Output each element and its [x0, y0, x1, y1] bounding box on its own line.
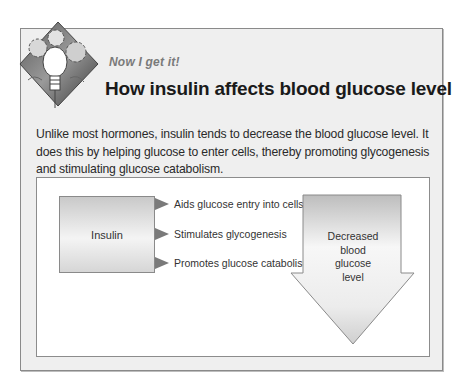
- page-title: How insulin affects blood glucose level: [105, 78, 452, 100]
- result-line: glucose: [318, 257, 388, 271]
- result-line: level: [318, 271, 388, 285]
- section-kicker: Now I get it!: [109, 55, 180, 69]
- effect-label: Stimulates glycogenesis: [174, 228, 287, 240]
- insulin-label: Insulin: [91, 229, 123, 241]
- lightbulb-gears-icon: [18, 18, 100, 110]
- effect-item: Aids glucose entry into cells: [155, 197, 304, 211]
- triangle-pointer-icon: [155, 228, 169, 240]
- effect-item: Promotes glucose catabolism: [155, 256, 311, 270]
- triangle-pointer-icon: [155, 257, 169, 269]
- effect-label: Aids glucose entry into cells: [174, 198, 304, 210]
- effect-item: Stimulates glycogenesis: [155, 227, 287, 241]
- description-paragraph: Unlike most hormones, insulin tends to d…: [36, 126, 436, 179]
- insulin-box: Insulin: [59, 196, 155, 273]
- triangle-pointer-icon: [155, 198, 169, 210]
- result-label: Decreased blood glucose level: [318, 230, 388, 284]
- result-line: blood: [318, 244, 388, 258]
- result-line: Decreased: [318, 230, 388, 244]
- effect-label: Promotes glucose catabolism: [174, 257, 311, 269]
